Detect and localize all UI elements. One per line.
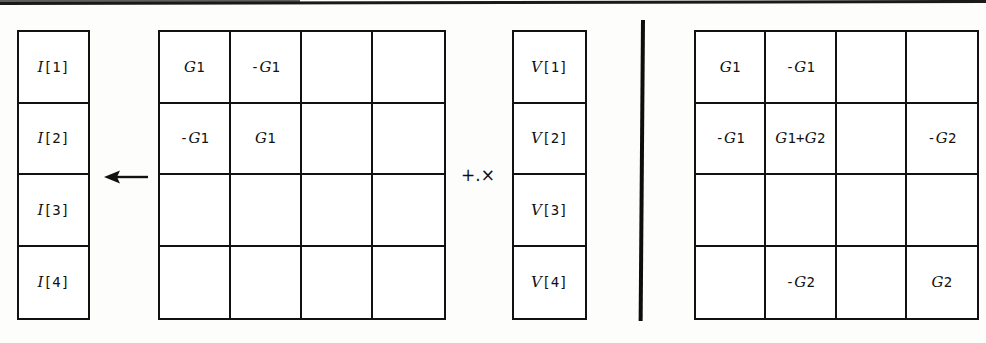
- matrix-left-cell-r2c3: [302, 104, 373, 176]
- matrix-right-cell-r1c3: [837, 32, 907, 104]
- matrix-right-cell-r2c2: G1+G2: [766, 104, 836, 176]
- conductance-matrix-left: G1 -G1 -G1 G1: [158, 30, 446, 320]
- apl-matrix-figure: I[1] I[2] I[3] I[4] G1 -G1 -G1 G1 +.× V[…: [0, 0, 986, 343]
- matrix-right-cell-r1c4: [907, 32, 977, 104]
- matrix-right-cell-r3c3: [837, 175, 907, 247]
- matrix-left-cell-r3c3: [302, 175, 373, 247]
- matrix-left-cell-r3c1: [160, 175, 231, 247]
- matrix-right-cell-r2c4: -G2: [907, 104, 977, 176]
- matrix-left-cell-r1c1: G1: [160, 32, 231, 104]
- i-vector-cell-4: I[4]: [19, 247, 88, 319]
- matrix-left-cell-r1c4: [373, 32, 444, 104]
- matrix-right-cell-r2c1: -G1: [696, 104, 766, 176]
- i-vector-cell-1: I[1]: [19, 32, 88, 104]
- i-vector-cell-2: I[2]: [19, 104, 88, 176]
- matrix-left-cell-r2c1: -G1: [160, 104, 231, 176]
- matrix-right-cell-r4c4: G2: [907, 247, 977, 319]
- conductance-matrix-right: G1 -G1 -G1 G1+G2 -G2 -G2 G2: [694, 30, 979, 320]
- matrix-left-cell-r4c2: [231, 247, 302, 319]
- matrix-right-cell-r1c1: G1: [696, 32, 766, 104]
- matrix-left-cell-r4c3: [302, 247, 373, 319]
- top-horizontal-rule: [0, 0, 986, 5]
- v-vector-cell-2: V[2]: [514, 104, 585, 176]
- matrix-left-cell-r3c4: [373, 175, 444, 247]
- matrix-left-cell-r1c2: -G1: [231, 32, 302, 104]
- v-vector-box: V[1] V[2] V[3] V[4]: [512, 30, 587, 320]
- v-vector-cell-3: V[3]: [514, 175, 585, 247]
- v-vector-cell-4: V[4]: [514, 247, 585, 319]
- matrix-left-cell-r2c4: [373, 104, 444, 176]
- i-vector-cell-3: I[3]: [19, 175, 88, 247]
- left-arrow-icon: [104, 168, 148, 186]
- matrix-right-cell-r4c1: [696, 247, 766, 319]
- matrix-right-cell-r3c4: [907, 175, 977, 247]
- v-vector-cell-1: V[1]: [514, 32, 585, 104]
- matrix-left-cell-r2c2: G1: [231, 104, 302, 176]
- matrix-left-cell-r4c1: [160, 247, 231, 319]
- matrix-right-cell-r4c3: [837, 247, 907, 319]
- matrix-right-cell-r1c2: -G1: [766, 32, 836, 104]
- matrix-right-cell-r2c3: [837, 104, 907, 176]
- matrix-left-cell-r4c4: [373, 247, 444, 319]
- i-vector-box: I[1] I[2] I[3] I[4]: [17, 30, 90, 320]
- vertical-separator-bar: [639, 20, 645, 321]
- inner-product-operator: +.×: [456, 163, 500, 187]
- matrix-right-cell-r4c2: -G2: [766, 247, 836, 319]
- matrix-right-cell-r3c1: [696, 175, 766, 247]
- matrix-left-cell-r3c2: [231, 175, 302, 247]
- matrix-right-cell-r3c2: [766, 175, 836, 247]
- matrix-left-cell-r1c3: [302, 32, 373, 104]
